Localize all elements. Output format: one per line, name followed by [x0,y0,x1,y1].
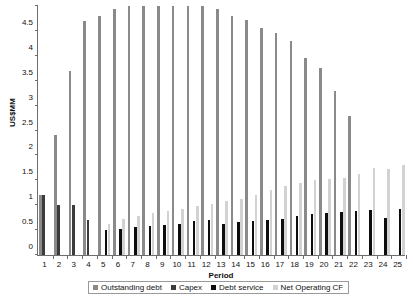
plot-area: 00.511.522.533.544.55 [37,6,405,256]
bar-outstanding-debt [157,6,160,255]
bar-group [126,6,141,255]
x-axis-tick-label: 1 [42,260,46,269]
bar-group [112,6,127,255]
y-axis-tick-label: 4.5 [22,17,38,26]
x-axis-tick-mark [303,255,304,259]
x-axis-tick-label: 15 [246,260,255,269]
bar-net-operating-cf [211,204,214,255]
x-axis-tick-label: 12 [202,260,211,269]
bar-net-operating-cf [343,178,346,255]
bar-group [215,6,230,255]
bar-net-operating-cf [137,216,140,255]
x-axis-tick-label: 6 [116,260,120,269]
y-axis-tick-label: 3.5 [22,67,38,76]
y-axis-tick-label: 5 [29,0,38,2]
x-axis-tick-label: 24 [378,260,387,269]
x-axis-tick-mark [332,255,333,259]
x-axis-tick-label: 11 [187,260,195,269]
bar-group [274,6,289,255]
bar-group [156,6,171,255]
x-axis-tick-mark [185,255,186,259]
bar-outstanding-debt [113,9,116,256]
x-axis-tick-label: 4 [86,260,90,269]
x-axis-tick-mark [82,255,83,259]
x-axis-tick-mark [391,255,392,259]
x-axis-tick-mark [156,255,157,259]
x-axis-tick-label: 16 [261,260,270,269]
legend-swatch-icon [171,285,176,290]
bar-outstanding-debt [216,9,219,256]
bar-outstanding-debt [319,68,322,255]
bar-net-operating-cf [402,165,405,255]
bar-net-operating-cf [314,180,317,255]
x-axis-tick-label: 10 [172,260,181,269]
bar-outstanding-debt [260,28,263,255]
bar-group [288,6,303,255]
legend-label: Outstanding debt [101,283,162,292]
bar-outstanding-debt [201,6,204,255]
x-axis-tick-label: 14 [231,260,240,269]
bar-outstanding-debt [98,16,101,255]
legend-item[interactable]: Net Operating CF [273,283,344,292]
bar-capex [42,195,45,255]
bar-group [141,6,156,255]
x-axis-tick-label: 23 [364,260,373,269]
bar-capex [57,205,60,255]
x-axis-tick-label: 13 [217,260,226,269]
x-axis-tick-label: 21 [334,260,343,269]
x-axis-tick-mark [288,255,289,259]
bar-net-operating-cf [225,201,228,255]
bar-capex [87,220,90,255]
bar-net-operating-cf [152,213,155,255]
bar-net-operating-cf [167,211,170,255]
bar-net-operating-cf [240,199,243,255]
bar-group [347,6,362,255]
x-axis-tick-label: 25 [393,260,402,269]
bar-net-operating-cf [387,169,390,255]
legend-item[interactable]: Outstanding debt [93,283,162,292]
legend-item[interactable]: Debt service [211,283,263,292]
legend-label: Capex [179,283,202,292]
bar-group [362,6,377,255]
x-axis-tick-mark [97,255,98,259]
y-axis-tick-label: 1.5 [22,167,38,176]
legend-item[interactable]: Capex [171,283,202,292]
x-axis-tick-label: 22 [349,260,358,269]
bar-net-operating-cf [299,183,302,255]
bar-group [332,6,347,255]
y-axis-tick-label: 1 [29,192,38,201]
x-axis-tick-mark [259,255,260,259]
chart-legend: Outstanding debtCapexDebt serviceNet Ope… [88,281,349,294]
x-axis-tick-label: 20 [320,260,329,269]
bar-net-operating-cf [181,209,184,255]
bar-outstanding-debt [334,91,337,255]
y-axis-title: US$MM [8,83,17,143]
x-axis-tick-label: 3 [72,260,76,269]
bar-net-operating-cf [122,219,125,255]
bar-group [259,6,274,255]
bar-net-operating-cf [255,195,258,255]
bar-outstanding-debt [290,41,293,255]
bar-outstanding-debt [245,20,248,255]
bar-group [200,6,215,255]
plot-inner: 00.511.522.533.544.55 [38,6,405,255]
x-axis-tick-mark [274,255,275,259]
bar-capex [72,205,75,255]
y-axis-tick-label: 0.5 [22,217,38,226]
bar-chart: US$MM 00.511.522.533.544.55 123456789101… [0,0,413,301]
bar-group [185,6,200,255]
bar-net-operating-cf [328,179,331,255]
bar-group [67,6,82,255]
bar-net-operating-cf [358,174,361,255]
x-axis-tick-mark [318,255,319,259]
y-axis-tick-label: 0 [29,242,38,251]
x-axis-tick-mark [200,255,201,259]
bar-group [229,6,244,255]
y-axis-tick-label: 4 [29,42,38,51]
bar-group [318,6,333,255]
bar-group [82,6,97,255]
x-axis-tick-mark [141,255,142,259]
bar-outstanding-debt [142,6,145,255]
bar-outstanding-debt [128,6,131,255]
x-axis-tick-mark [244,255,245,259]
